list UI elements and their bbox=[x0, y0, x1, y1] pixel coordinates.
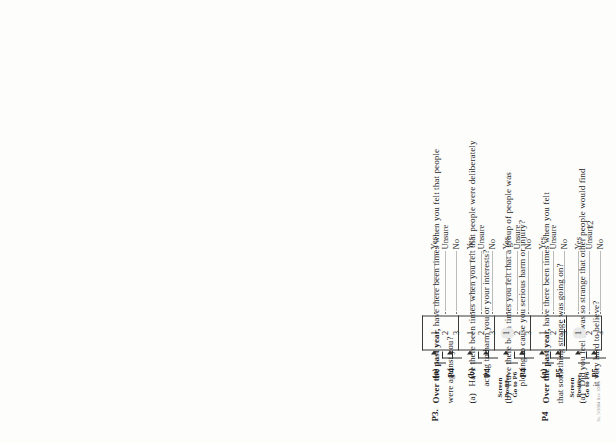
box-section-divider bbox=[530, 315, 531, 350]
screen-positive-label-q5: ScreenPositive,Go to P6 bbox=[568, 371, 591, 397]
option-label-no-q2: No bbox=[487, 238, 497, 249]
option-row-no-q3: No bbox=[523, 238, 533, 249]
skip-target-no-q4: P5 bbox=[555, 368, 564, 377]
option-label-yes-q5: Yes bbox=[573, 236, 583, 249]
skip-arrow-head-q5 bbox=[575, 350, 581, 354]
answer-code-yes-q3[interactable]: 1 bbox=[502, 327, 511, 339]
leader-unsure-q2 bbox=[481, 251, 482, 313]
skip-arrow-head-q3 bbox=[503, 350, 509, 354]
answer-code-no-q4[interactable]: 3 bbox=[560, 327, 569, 339]
option-row-unsure-q3: Unsure bbox=[512, 224, 522, 249]
answer-code-yes-q1[interactable]: 1 bbox=[430, 327, 439, 339]
skip-arrow-stem-q5 bbox=[578, 362, 590, 363]
option-row-no-q1: No bbox=[451, 238, 461, 249]
option-row-yes-q2: Yes bbox=[465, 236, 475, 249]
skip-bracket-head-q3 bbox=[519, 351, 525, 355]
answer-code-yes-q5[interactable]: 1 bbox=[574, 327, 583, 339]
skip-arrow-head-q2 bbox=[467, 350, 473, 354]
option-row-no-q2: No bbox=[487, 238, 497, 249]
option-label-yes-q1: Yes bbox=[429, 236, 439, 249]
screen-positive-line2: Positive, bbox=[575, 371, 583, 397]
answer-code-unsure-q2[interactable]: 2 bbox=[477, 327, 486, 339]
screen-positive-line3: Go to P6 bbox=[583, 371, 591, 397]
option-label-unsure-q3: Unsure bbox=[512, 224, 522, 249]
screen-positive-line3: Go to P6 bbox=[511, 371, 519, 397]
answer-code-yes-q2[interactable]: 1 bbox=[466, 327, 475, 339]
skip-target-yes-q1: (a) bbox=[431, 368, 440, 378]
option-label-yes-q3: Yes bbox=[501, 236, 511, 249]
answer-code-no-q1[interactable]: 3 bbox=[452, 327, 461, 339]
option-row-yes-q4: Yes bbox=[537, 236, 547, 249]
skip-target-no-q2: P4 bbox=[483, 368, 492, 377]
skip-target-yes-q2: (b) bbox=[467, 368, 476, 378]
leader-no-q4 bbox=[564, 251, 565, 313]
skip-target-no-q5: P5 bbox=[591, 368, 600, 377]
leader-yes-q4 bbox=[542, 251, 543, 313]
option-row-unsure-q2: Unsure bbox=[476, 224, 486, 249]
screen-positive-line1: Screen bbox=[568, 371, 576, 397]
option-row-yes-q3: Yes bbox=[501, 236, 511, 249]
screen-positive-line2: Positive, bbox=[503, 371, 511, 397]
leader-unsure-q3 bbox=[517, 251, 518, 313]
leader-no-q1 bbox=[456, 251, 457, 313]
question-number-p3: P3. bbox=[430, 409, 440, 421]
answer-code-yes-q4[interactable]: 1 bbox=[538, 327, 547, 339]
skip-arrow-head-q4 bbox=[539, 350, 545, 354]
option-row-no-q5: No bbox=[595, 238, 605, 249]
leader-no-q2 bbox=[492, 251, 493, 313]
skip-target-yes-q4: (a) bbox=[539, 368, 548, 378]
answer-code-no-q2[interactable]: 3 bbox=[488, 327, 497, 339]
option-row-unsure-q1: Unsure bbox=[440, 224, 450, 249]
leader-no-q5 bbox=[600, 251, 601, 313]
option-label-unsure-q1: Unsure bbox=[440, 224, 450, 249]
question-subtag-p3a: (a) bbox=[466, 386, 480, 403]
answer-code-unsure-q1[interactable]: 2 bbox=[441, 327, 450, 339]
leader-yes-q2 bbox=[470, 251, 471, 313]
option-row-unsure-q4: Unsure bbox=[548, 224, 558, 249]
skip-bracket-head-q4 bbox=[555, 351, 561, 355]
questionnaire-page: P3. Over the past year, have there been … bbox=[0, 0, 616, 443]
skip-bracket-head-q2 bbox=[483, 351, 489, 355]
question-body-p4: have there been times when you felt bbox=[541, 192, 551, 328]
screen-positive-line1: Screen bbox=[496, 371, 504, 397]
page-number: 12 bbox=[585, 220, 595, 229]
option-label-no-q3: No bbox=[523, 238, 533, 249]
leader-no-q3 bbox=[528, 251, 529, 313]
option-label-no-q1: No bbox=[451, 238, 461, 249]
box-divider-1 bbox=[422, 315, 423, 350]
box-section-divider bbox=[458, 315, 459, 350]
skip-arrow-head-q1 bbox=[431, 350, 437, 354]
skip-target-no-q1: P4 bbox=[447, 368, 456, 377]
skip-arrow-stem-q3 bbox=[506, 362, 518, 363]
option-label-no-q5: No bbox=[595, 238, 605, 249]
answer-code-unsure-q3[interactable]: 2 bbox=[513, 327, 522, 339]
answer-code-unsure-q5[interactable]: 2 bbox=[585, 327, 594, 339]
option-row-yes-q1: Yes bbox=[429, 236, 439, 249]
skip-target-no-q3: P4 bbox=[519, 368, 528, 377]
answer-code-no-q3[interactable]: 3 bbox=[524, 327, 533, 339]
footer-code: Sc. 5/2004 Rev 10/05 bbox=[596, 381, 601, 421]
option-label-no-q4: No bbox=[559, 238, 569, 249]
answer-code-no-q5[interactable]: 3 bbox=[596, 327, 605, 339]
skip-bracket-head-q1 bbox=[447, 351, 453, 355]
leader-yes-q3 bbox=[506, 251, 507, 313]
option-label-yes-q2: Yes bbox=[465, 236, 475, 249]
option-row-yes-q5: Yes bbox=[573, 236, 583, 249]
answer-code-unsure-q4[interactable]: 2 bbox=[549, 327, 558, 339]
leader-unsure-q1 bbox=[445, 251, 446, 313]
leader-unsure-q4 bbox=[553, 251, 554, 313]
skip-arrow-stem-q1 bbox=[434, 362, 446, 363]
option-row-no-q4: No bbox=[559, 238, 569, 249]
screen-positive-label-q3: ScreenPositive,Go to P6 bbox=[496, 371, 519, 397]
skip-bracket-head-q5 bbox=[591, 351, 597, 355]
leader-unsure-q5 bbox=[589, 251, 590, 313]
skip-arrow-stem-q4 bbox=[542, 362, 554, 363]
leader-yes-q1 bbox=[434, 251, 435, 313]
option-label-unsure-q4: Unsure bbox=[548, 224, 558, 249]
leader-yes-q5 bbox=[578, 251, 579, 313]
skip-arrow-stem-q2 bbox=[470, 362, 482, 363]
question-number-p4: P4 bbox=[540, 411, 550, 421]
option-label-unsure-q2: Unsure bbox=[476, 224, 486, 249]
box-section-divider bbox=[566, 315, 567, 350]
box-section-divider bbox=[494, 315, 495, 350]
